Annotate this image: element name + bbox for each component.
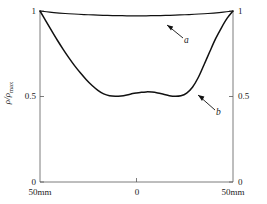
y-axis-left-tick-1: 1 <box>22 7 36 16</box>
y-axis-right-tick-0: 0 <box>238 178 243 187</box>
chart-plot-area <box>0 0 267 204</box>
y-axis-title-text: ρ/ρ <box>2 93 12 104</box>
axis-lines <box>40 11 233 182</box>
curve-label-a: a <box>184 36 189 45</box>
y-axis-title: ρ/ρmax <box>2 62 16 124</box>
axis-ticks <box>40 11 233 182</box>
x-axis-tick-right: 50mm <box>211 188 255 197</box>
x-axis-tick-center: 0 <box>115 188 159 197</box>
y-axis-right-tick-05: 0.5 <box>238 92 249 101</box>
y-axis-left-tick-0: 0 <box>22 178 36 187</box>
chart-figure: 1 0.5 0 1 0.5 0 50mm 0 50mm ρ/ρmax a b <box>0 0 267 204</box>
annotation-arrows <box>167 25 215 110</box>
curve-a <box>40 11 233 16</box>
y-axis-title-subscript: max <box>7 82 14 93</box>
y-axis-right-tick-1: 1 <box>238 7 243 16</box>
data-series-layer <box>40 11 233 96</box>
curve-label-b: b <box>216 108 221 117</box>
curve-b <box>40 11 233 96</box>
y-axis-left-tick-05: 0.5 <box>14 92 36 101</box>
x-axis-tick-left: 50mm <box>18 188 62 197</box>
